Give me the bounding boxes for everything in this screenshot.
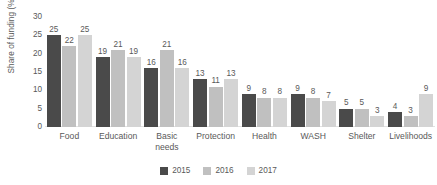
bar-2015[interactable]: 9 [242, 17, 256, 127]
y-axis-tick-15: 15 [33, 68, 42, 76]
bar-rect [242, 94, 256, 127]
bar-2016[interactable]: 21 [160, 17, 174, 127]
legend-swatch-icon [247, 167, 255, 175]
bar-group: 192119 [96, 17, 141, 127]
bar-group: 252225 [47, 17, 92, 127]
plot-area: 252225192119162116131113988987553439 [45, 17, 435, 127]
bar-2017[interactable]: 13 [224, 17, 238, 127]
legend-swatch-icon [160, 167, 168, 175]
legend-item-2015[interactable]: 2015 [160, 167, 190, 175]
y-axis-title: Share of funding (%) [7, 0, 19, 92]
bar-rect [96, 57, 110, 127]
bar-rect [209, 87, 223, 127]
bar-2015[interactable]: 19 [96, 17, 110, 127]
bar-value-label: 25 [73, 25, 97, 34]
bar-value-label: 9 [414, 84, 437, 93]
bar-2016[interactable]: 8 [306, 17, 320, 127]
bar-2015[interactable]: 13 [193, 17, 207, 127]
bar-rect [339, 109, 353, 127]
legend-label: 2017 [259, 167, 277, 175]
bar-2015[interactable]: 5 [339, 17, 353, 127]
y-axis-tick-20: 20 [33, 50, 42, 58]
legend-item-2017[interactable]: 2017 [247, 167, 277, 175]
legend-label: 2016 [215, 167, 233, 175]
bar-group: 439 [388, 17, 433, 127]
bar-rect [62, 46, 76, 127]
bar-rect [419, 94, 433, 127]
bar-rect [47, 35, 61, 127]
y-axis-tick-5: 5 [37, 105, 42, 113]
chart-legend: 201520162017 [0, 167, 437, 175]
bar-2016[interactable]: 21 [111, 17, 125, 127]
bar-2016[interactable]: 3 [404, 17, 418, 127]
bar-group: 987 [291, 17, 336, 127]
y-axis-tick-labels: 302520151050 [20, 0, 42, 185]
bar-value-label: 13 [219, 69, 243, 78]
x-axis-category-label: Livelihoods [380, 131, 437, 142]
legend-swatch-icon [203, 167, 211, 175]
y-axis-tick-0: 0 [37, 123, 42, 131]
legend-label: 2015 [172, 167, 190, 175]
bar-rect [388, 112, 402, 127]
bar-rect [273, 98, 287, 127]
bar-value-label: 19 [122, 47, 146, 56]
y-axis-tick-10: 10 [33, 86, 42, 94]
bar-2017[interactable]: 7 [322, 17, 336, 127]
bar-rect [111, 50, 125, 127]
bar-rect [370, 116, 384, 127]
bar-2017[interactable]: 25 [78, 17, 92, 127]
y-axis-tick-25: 25 [33, 31, 42, 39]
bar-value-label: 16 [170, 58, 194, 67]
bar-2015[interactable]: 25 [47, 17, 61, 127]
bar-rect [306, 98, 320, 127]
bar-rect [257, 98, 271, 127]
bar-2016[interactable]: 8 [257, 17, 271, 127]
bar-group: 162116 [144, 17, 189, 127]
y-axis-tick-30: 30 [33, 13, 42, 21]
bar-2017[interactable]: 19 [127, 17, 141, 127]
bar-chart: Share of funding (%) 302520151050 252225… [0, 0, 437, 185]
bar-2017[interactable]: 8 [273, 17, 287, 127]
bar-rect [291, 94, 305, 127]
bar-2015[interactable]: 16 [144, 17, 158, 127]
bar-group: 988 [242, 17, 287, 127]
bar-rect [193, 79, 207, 127]
bar-rect [127, 57, 141, 127]
legend-item-2016[interactable]: 2016 [203, 167, 233, 175]
bar-group: 131113 [193, 17, 238, 127]
bar-2017[interactable]: 9 [419, 17, 433, 127]
bar-group: 553 [339, 17, 384, 127]
bar-2015[interactable]: 9 [291, 17, 305, 127]
bar-rect [144, 68, 158, 127]
bar-rect [404, 116, 418, 127]
